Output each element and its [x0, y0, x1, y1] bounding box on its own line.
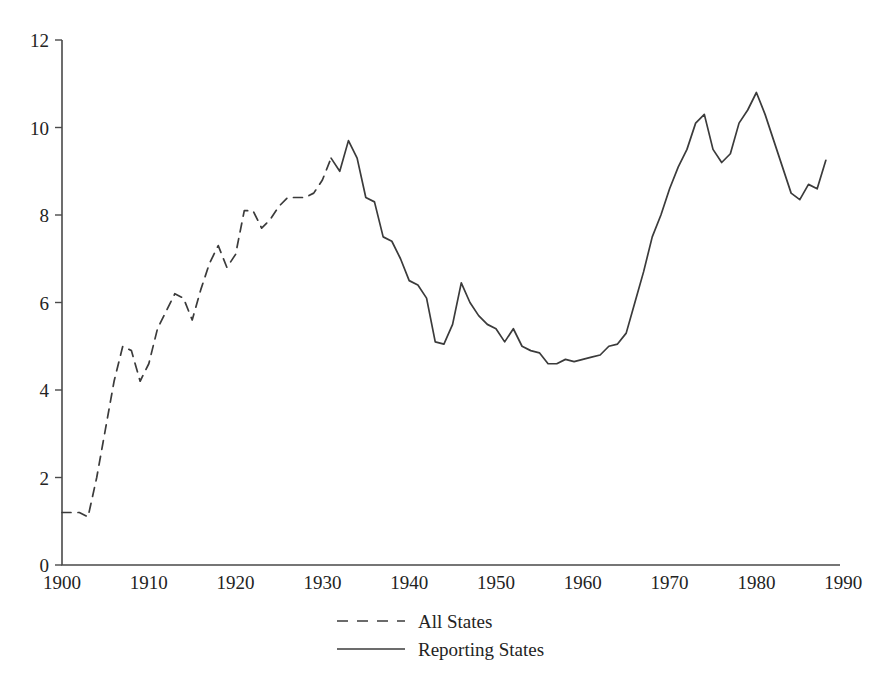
y-axis-tick-labels: 024681012: [30, 30, 50, 576]
x-tick-label: 1950: [477, 572, 515, 593]
chart-legend: All StatesReporting States: [337, 611, 544, 660]
y-tick-label: 12: [30, 30, 49, 51]
series-line-reporting-states: [331, 93, 826, 364]
x-tick-label: 1940: [390, 572, 428, 593]
series-line-all-states: [62, 158, 331, 517]
line-chart: 024681012 190019101920193019401950196019…: [0, 0, 885, 686]
chart-figure: 024681012 190019101920193019401950196019…: [0, 0, 885, 686]
axis-lines: [62, 40, 840, 565]
chart-axes: [55, 40, 840, 565]
x-tick-label: 1920: [217, 572, 255, 593]
x-tick-label: 1960: [564, 572, 602, 593]
x-tick-label: 1990: [824, 572, 862, 593]
legend-label: Reporting States: [418, 639, 544, 660]
x-tick-label: 1930: [303, 572, 341, 593]
x-tick-label: 1910: [130, 572, 168, 593]
x-tick-label: 1980: [737, 572, 775, 593]
y-tick-label: 8: [40, 205, 50, 226]
x-tick-label: 1970: [651, 572, 689, 593]
y-tick-label: 4: [40, 380, 50, 401]
y-tick-label: 10: [30, 118, 49, 139]
x-tick-label: 1900: [43, 572, 81, 593]
y-tick-label: 2: [40, 468, 50, 489]
y-axis-tick-marks: [55, 40, 62, 565]
y-tick-label: 6: [40, 293, 50, 314]
x-axis-tick-labels: 1900191019201930194019501960197019801990: [43, 572, 862, 593]
chart-series-group: [62, 93, 826, 517]
legend-label: All States: [418, 611, 492, 632]
